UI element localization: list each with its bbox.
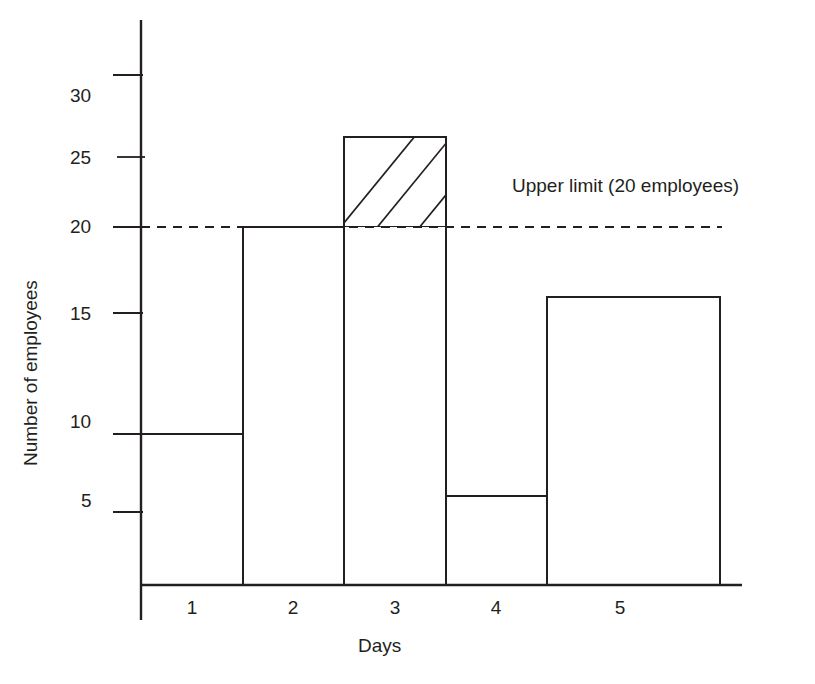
x-tick-label-5: 5 (615, 597, 626, 618)
y-axis-title: Number of employees (20, 280, 41, 466)
bars-group (141, 137, 720, 585)
y-axis (113, 20, 145, 620)
bar-day-2[interactable] (243, 227, 344, 585)
y-tick-label-20: 20 (70, 216, 91, 237)
chart-canvas: 30 25 20 15 10 5 1 2 3 4 5 Upper limit (… (0, 0, 815, 684)
x-tick-label-3: 3 (390, 597, 401, 618)
x-tick-label-1: 1 (187, 597, 198, 618)
upper-limit-label: Upper limit (20 employees) (512, 175, 739, 196)
y-tick-label-25: 25 (70, 147, 91, 168)
y-tick-label-30: 30 (70, 85, 91, 106)
bar-day-5[interactable] (547, 297, 720, 585)
x-tick-label-2: 2 (288, 597, 299, 618)
y-tick-label-5: 5 (81, 490, 92, 511)
x-axis-title: Days (358, 635, 401, 656)
y-tick-label-10: 10 (70, 411, 91, 432)
x-tick-label-4: 4 (491, 597, 502, 618)
y-tick-label-15: 15 (70, 303, 91, 324)
x-tick-labels: 1 2 3 4 5 (187, 597, 626, 618)
bar-day-4[interactable] (446, 496, 547, 585)
y-tick-labels: 30 25 20 15 10 5 (70, 85, 92, 511)
bar-day-1[interactable] (141, 434, 243, 585)
bar-chart-figure: 30 25 20 15 10 5 1 2 3 4 5 Upper limit (… (0, 0, 815, 684)
